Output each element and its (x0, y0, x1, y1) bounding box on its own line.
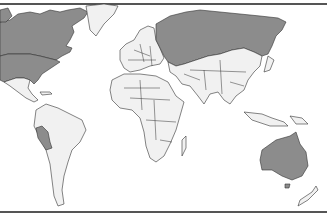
region-canada[interactable] (0, 8, 88, 60)
world-map (0, 0, 327, 214)
region-australia[interactable] (260, 132, 308, 180)
region-madagascar (182, 136, 186, 156)
region-africa (110, 74, 184, 162)
region-new-guinea (290, 116, 308, 124)
region-tasmania (285, 184, 290, 188)
region-south-america (34, 104, 86, 206)
region-indonesia (244, 112, 288, 126)
region-caribbean (40, 92, 52, 95)
region-japan (264, 56, 274, 72)
region-greenland (86, 4, 118, 36)
region-new-zealand (298, 186, 318, 206)
region-usa[interactable] (0, 54, 60, 84)
